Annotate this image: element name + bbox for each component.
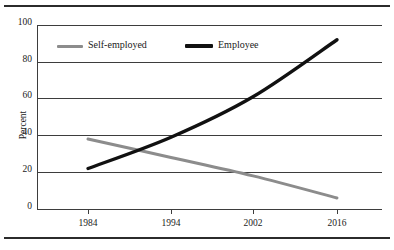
series-line-self-employed <box>88 139 337 198</box>
plot-area: 100 80 60 40 20 0 Percent 1984 1994 2002… <box>0 0 394 250</box>
legend-swatch-self-employed <box>57 45 83 48</box>
series-line-employee <box>88 40 337 169</box>
series-layer <box>0 0 394 250</box>
legend-label-employee: Employee <box>218 39 259 50</box>
legend-swatch-employee <box>185 44 213 48</box>
legend-label-self-employed: Self-employed <box>88 39 147 50</box>
chart-figure: 100 80 60 40 20 0 Percent 1984 1994 2002… <box>0 0 394 250</box>
